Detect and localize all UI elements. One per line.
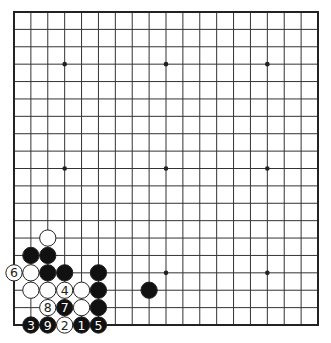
black-stone [90,265,106,281]
white-stone [23,265,39,281]
white-stone [23,282,39,298]
white-stone-move-2: 2 [57,317,73,333]
black-stone [90,282,106,298]
move-number: 6 [10,265,18,280]
move-number: 1 [78,318,86,333]
star-point [164,271,169,276]
move-number: 7 [61,300,69,315]
move-number: 3 [27,318,35,333]
move-number: 2 [61,318,69,333]
white-stone [40,230,56,246]
go-board: 648739215 [0,0,331,343]
black-stone-move-3: 3 [23,317,39,333]
white-stone [73,282,89,298]
white-stone-move-6: 6 [6,265,22,281]
star-point [164,166,169,171]
move-number: 8 [44,300,52,315]
white-stone-move-4: 4 [57,282,73,298]
black-stone [90,299,106,315]
move-number: 5 [94,318,102,333]
star-point [265,271,270,276]
black-stone-move-5: 5 [90,317,106,333]
move-number: 4 [61,283,69,298]
move-number: 9 [44,318,52,333]
black-stone-move-9: 9 [40,317,56,333]
white-stone [73,299,89,315]
black-stone [40,265,56,281]
star-point [265,166,270,171]
black-stone [141,282,157,298]
star-point [164,62,169,67]
star-point [62,62,67,67]
diagram-caption-cropped [18,339,44,343]
star-point [265,62,270,67]
star-point [62,166,67,171]
white-stone-move-8: 8 [40,299,56,315]
black-stone [57,265,73,281]
black-stone [40,247,56,263]
white-stone [40,282,56,298]
black-stone [23,247,39,263]
black-stone-move-7: 7 [57,299,73,315]
black-stone-move-1: 1 [73,317,89,333]
